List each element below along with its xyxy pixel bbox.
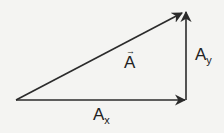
- vector-arrows: [0, 0, 224, 133]
- y-component-label-text: A: [195, 45, 206, 64]
- x-component-label-text: A: [93, 105, 104, 124]
- resultant-label: → A: [124, 54, 135, 71]
- resultant-vector-arrow: [16, 13, 182, 100]
- vector-diagram: → A Ay Ax: [0, 0, 224, 133]
- y-component-label: Ay: [195, 46, 212, 66]
- x-component-label: Ax: [93, 106, 110, 126]
- vector-arrow-icon: →: [126, 47, 135, 56]
- y-subscript: y: [206, 54, 212, 66]
- x-subscript: x: [104, 114, 110, 126]
